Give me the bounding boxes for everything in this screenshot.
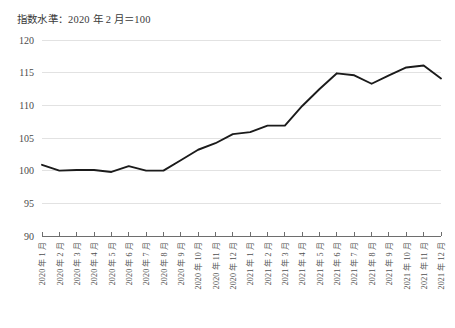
y-axis-tick-label: 90 [24, 231, 34, 242]
y-axis-tick-label: 105 [19, 133, 34, 144]
x-axis-tick-label: 2021 年 10 月 [402, 242, 412, 289]
data-series-group [42, 65, 441, 171]
x-axis-tick-label: 2020 年 6 月 [124, 242, 134, 285]
x-axis-tick-label: 2020 年 9 月 [176, 242, 186, 285]
x-axis [42, 232, 441, 236]
x-axis-tick-label: 2021 年 4 月 [297, 242, 307, 285]
chart-figure: 指数水準：2020 年 2 月＝100 9095100105110115120 … [0, 0, 455, 328]
y-axis-tick-label: 120 [19, 35, 34, 46]
x-axis-tick-label: 2020 年 8 月 [159, 242, 169, 285]
x-axis-tick-label: 2020 年 4 月 [89, 242, 99, 285]
x-axis-tick-label: 2020 年 12 月 [228, 242, 238, 289]
x-axis-tick-label: 2021 年 2 月 [263, 242, 273, 285]
y-axis-tick-labels: 9095100105110115120 [19, 35, 34, 242]
x-axis-tick-label: 2020 年 1 月 [37, 242, 47, 285]
x-axis-tick-label: 2021 年 3 月 [280, 242, 290, 285]
x-axis-tick-label: 2021 年 1 月 [245, 242, 255, 285]
x-axis-tick-label: 2021 年 6 月 [332, 242, 342, 285]
x-axis-tick-label: 2020 年 2 月 [55, 242, 65, 285]
x-axis-tick-label: 2021 年 8 月 [367, 242, 377, 285]
y-axis-tick-label: 110 [19, 100, 34, 111]
x-axis-tick-label: 2021 年 12 月 [436, 242, 446, 289]
x-axis-tick-label: 2021 年 11 月 [419, 242, 429, 289]
y-axis-tick-label: 115 [19, 67, 34, 78]
x-axis-tick-label: 2021 年 9 月 [384, 242, 394, 285]
line-chart-plot: 9095100105110115120 2020 年 1 月2020 年 2 月… [0, 0, 455, 328]
x-axis-tick-labels: 2020 年 1 月2020 年 2 月2020 年 3 月2020 年 4 月… [37, 242, 446, 289]
y-axis-tick-label: 100 [19, 165, 34, 176]
gridlines-group [42, 40, 441, 236]
x-axis-tick-label: 2020 年 5 月 [107, 242, 117, 285]
x-axis-tick-label: 2020 年 11 月 [211, 242, 221, 289]
x-axis-tick-label: 2021 年 5 月 [315, 242, 325, 285]
x-axis-tick-label: 2020 年 7 月 [141, 242, 151, 285]
x-axis-tick-label: 2020 年 3 月 [72, 242, 82, 285]
series-line-指数水準 [42, 65, 441, 171]
x-axis-tick-label: 2020 年 10 月 [193, 242, 203, 289]
x-axis-tick-label: 2021 年 7 月 [349, 242, 359, 285]
y-axis-tick-label: 95 [24, 198, 34, 209]
